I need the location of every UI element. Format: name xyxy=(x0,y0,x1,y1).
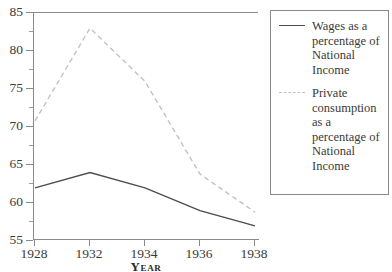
y-tick-major xyxy=(26,240,33,241)
y-tick-label: 60 xyxy=(0,195,23,209)
series-line-wages xyxy=(35,173,255,226)
legend-entry-private-consumption: Private consumption as a percentage of N… xyxy=(279,86,382,173)
y-tick-major xyxy=(26,126,33,127)
legend-label-wages: Wages as a percentage of National Income xyxy=(312,19,382,77)
plot-series-svg xyxy=(34,13,259,241)
series-line-private-consumption xyxy=(35,28,255,212)
chart-legend: Wages as a percentage of National Income… xyxy=(270,10,389,195)
y-tick-major xyxy=(26,164,33,165)
x-tick-label: 1932 xyxy=(59,247,119,261)
y-tick-label: 70 xyxy=(0,119,23,133)
y-tick-major xyxy=(26,12,33,13)
x-axis-title: Year xyxy=(33,260,259,272)
x-tick-label: 1936 xyxy=(169,247,229,261)
legend-label-private-consumption: Private consumption as a percentage of N… xyxy=(312,86,382,173)
x-tick-label: 1928 xyxy=(4,247,64,261)
y-tick-major xyxy=(26,50,33,51)
y-tick-major xyxy=(26,202,33,203)
plot-area xyxy=(33,12,258,240)
legend-swatch-solid-line xyxy=(279,19,305,32)
x-axis-line xyxy=(33,239,259,240)
y-tick-label: 55 xyxy=(0,233,23,247)
x-tick-label: 1938 xyxy=(224,247,284,261)
legend-entry-wages: Wages as a percentage of National Income xyxy=(279,19,382,77)
line-chart-figure: 55606570758085 19281932193419361938 Year… xyxy=(0,0,392,272)
y-tick-label: 80 xyxy=(0,43,23,57)
legend-swatch-dashed-line xyxy=(279,86,305,99)
y-tick-label: 65 xyxy=(0,157,23,171)
y-tick-label: 75 xyxy=(0,81,23,95)
y-tick-major xyxy=(26,88,33,89)
y-tick-label: 85 xyxy=(0,5,23,19)
